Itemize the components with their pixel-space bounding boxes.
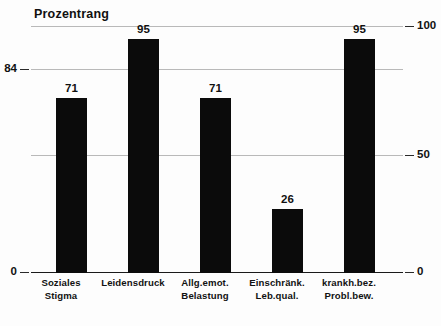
- category-label-4-line-0: krankh.bez.: [294, 277, 404, 290]
- bar-value-2: 71: [209, 83, 222, 95]
- bar-group-2: 71: [200, 26, 231, 273]
- bar-value-1: 95: [137, 24, 150, 36]
- bar-group-1: 95: [128, 26, 159, 273]
- category-label-0-line-1: Stigma: [6, 290, 116, 303]
- bar-value-3: 26: [281, 194, 294, 206]
- tick-label-right-100: 100: [417, 20, 436, 32]
- tick-mark-left-84: [20, 69, 29, 70]
- bars-layer: 71 95 71 26 95: [31, 26, 403, 273]
- tick-label-right-50: 50: [417, 149, 430, 161]
- category-label-4-line-1: Probl.bew.: [294, 290, 404, 303]
- tick-mark-right-50: [405, 155, 414, 156]
- category-label-4: krankh.bez. Probl.bew.: [294, 277, 404, 302]
- bar-leidensdruck: [128, 39, 159, 273]
- bar-group-4: 95: [344, 26, 375, 273]
- bar-group-3: 26: [272, 26, 303, 273]
- tick-label-left-0: 0: [11, 266, 17, 278]
- bar-value-0: 71: [65, 83, 78, 95]
- tick-mark-left-0: [20, 272, 29, 273]
- bar-soziales-stigma: [56, 98, 87, 273]
- bar-allg-emot-belastung: [200, 98, 231, 273]
- bar-group-0: 71: [56, 26, 87, 273]
- plot-area: 84 0 100 50 0 71 95 71 26: [31, 26, 403, 273]
- tick-label-left-84: 84: [4, 63, 17, 75]
- chart-title: Prozentrang: [34, 7, 109, 21]
- tick-label-right-0: 0: [417, 266, 423, 278]
- bar-einschraenk-leb-qual: [272, 209, 303, 273]
- bar-krankh-bez-probl-bew: [344, 39, 375, 273]
- bar-value-4: 95: [353, 24, 366, 36]
- tick-mark-right-0: [405, 272, 414, 273]
- tick-mark-right-100: [405, 26, 414, 27]
- bar-chart: Prozentrang 84 0 100 50 0 71 95: [0, 0, 441, 326]
